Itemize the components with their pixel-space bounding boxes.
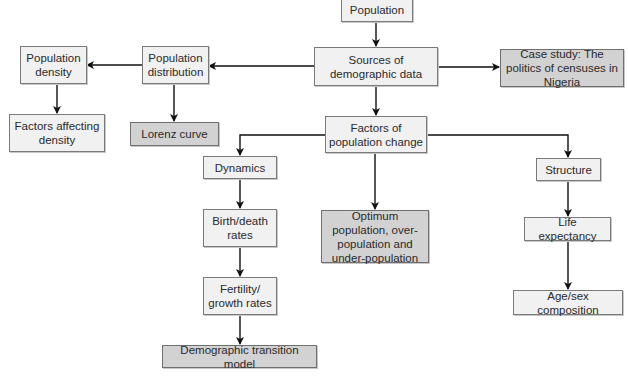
node-age-sex-composition: Age/sex composition (513, 290, 623, 315)
node-label: Population (350, 3, 404, 17)
node-factors-of-population-change: Factors of population change (325, 116, 427, 153)
node-lorenz-curve: Lorenz curve (130, 122, 219, 146)
node-label: Age/sex composition (517, 289, 619, 317)
node-population-density: Population density (20, 46, 87, 84)
node-life-expectancy: Life expectancy (524, 217, 611, 241)
node-label: Fertility/ growth rates (207, 282, 273, 310)
node-label: Structure (545, 163, 592, 177)
node-label: Dynamics (215, 161, 265, 175)
node-label: Optimum population, over-population and … (325, 209, 425, 265)
node-birth-death-rates: Birth/death rates (203, 209, 277, 247)
node-label: Factors of population change (329, 121, 423, 149)
node-label: Population distribution (146, 51, 205, 79)
node-factors-affecting-density: Factors affecting density (9, 114, 105, 152)
node-label: Case study: The politics of censuses in … (504, 47, 620, 89)
node-population-distribution: Population distribution (142, 46, 209, 84)
node-case-study-nigeria: Case study: The politics of censuses in … (500, 49, 624, 87)
node-demographic-transition-model: Demographic transition model (162, 345, 317, 368)
node-label: Factors affecting density (13, 119, 101, 147)
node-label: Life expectancy (528, 215, 607, 243)
node-label: Demographic transition model (166, 343, 313, 371)
node-structure: Structure (536, 158, 601, 181)
node-population: Population (341, 0, 413, 22)
arrow-factors-to-dynamics (240, 135, 325, 155)
node-optimum-population: Optimum population, over-population and … (321, 210, 429, 263)
node-sources-of-demographic-data: Sources of demographic data (314, 47, 438, 86)
node-fertility-growth-rates: Fertility/ growth rates (203, 277, 277, 315)
node-label: Sources of demographic data (318, 53, 434, 81)
node-dynamics: Dynamics (203, 156, 277, 179)
node-label: Birth/death rates (207, 214, 273, 242)
arrow-factors-to-structure (427, 135, 568, 157)
node-label: Population density (24, 51, 83, 79)
node-label: Lorenz curve (141, 127, 207, 141)
